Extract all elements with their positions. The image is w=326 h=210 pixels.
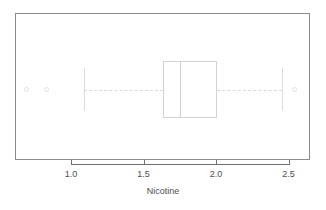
boxplot-figure: 1.01.52.02.5 Nicotine — [0, 0, 326, 210]
x-tick-mark — [216, 160, 217, 165]
boxplot-median-line — [180, 61, 181, 118]
boxplot-lower-whisker — [84, 90, 163, 91]
boxplot-iqr-box — [163, 61, 217, 118]
boxplot-outlier-point — [44, 87, 49, 92]
x-axis-title: Nicotine — [0, 185, 326, 197]
x-tick-mark — [71, 160, 72, 165]
x-tick-label: 2.0 — [196, 168, 236, 180]
boxplot-upper-whisker — [217, 90, 282, 91]
boxplot-outlier-point — [24, 87, 29, 92]
x-tick-label: 1.5 — [124, 168, 164, 180]
x-axis-line — [71, 164, 289, 165]
x-tick-mark — [144, 160, 145, 165]
x-tick-label: 2.5 — [269, 168, 309, 180]
x-tick-label: 1.0 — [51, 168, 91, 180]
x-tick-mark — [289, 160, 290, 165]
boxplot-upper-cap — [282, 68, 283, 111]
boxplot-lower-cap — [84, 68, 85, 111]
